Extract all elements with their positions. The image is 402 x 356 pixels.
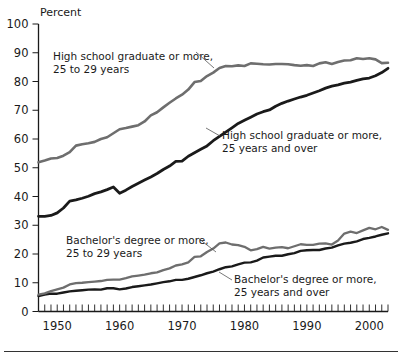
annotation-hs-25-over-line1: High school graduate or more, [222, 129, 382, 141]
y-tick-label: 80 [14, 75, 29, 89]
x-tick-label: 2000 [355, 319, 384, 333]
y-tick-label: 60 [14, 132, 29, 146]
y-tick-label: 70 [14, 103, 29, 117]
annotation-ba-25-29-line1: Bachelor's degree or more, [66, 234, 209, 246]
x-tick-label: 1960 [105, 319, 134, 333]
annotation-hs-25-over-line2: 25 years and over [222, 142, 318, 154]
annotation-ba-25-29-line2: 25 to 29 years [66, 247, 142, 259]
annotation-ba-25-over-line1: Bachelor's degree or more, [234, 273, 377, 285]
x-tick-label: 1990 [292, 319, 321, 333]
y-tick-label: 20 [14, 247, 29, 261]
educational-attainment-line-chart: 0102030405060708090100 19501960197019801… [0, 0, 402, 356]
annotation-hs-25-29-line1: High school graduate or more, [53, 50, 213, 62]
chart-figure: 0102030405060708090100 19501960197019801… [0, 0, 402, 356]
y-axis-title: Percent [40, 6, 82, 19]
y-tick-label: 0 [21, 305, 28, 319]
y-tick-label: 50 [14, 161, 29, 175]
annotation-ba-25-over-line2: 25 years and over [234, 286, 330, 298]
y-tick-label: 90 [14, 46, 29, 60]
x-tick-label: 1980 [230, 319, 259, 333]
y-tick-label: 100 [7, 17, 29, 31]
x-tick-label: 1970 [167, 319, 196, 333]
annotation-hs-25-29-line2: 25 to 29 years [53, 63, 129, 75]
y-tick-label: 30 [14, 218, 29, 232]
x-tick-label: 1950 [43, 319, 72, 333]
y-tick-label: 40 [14, 190, 29, 204]
y-tick-label: 10 [14, 276, 29, 290]
